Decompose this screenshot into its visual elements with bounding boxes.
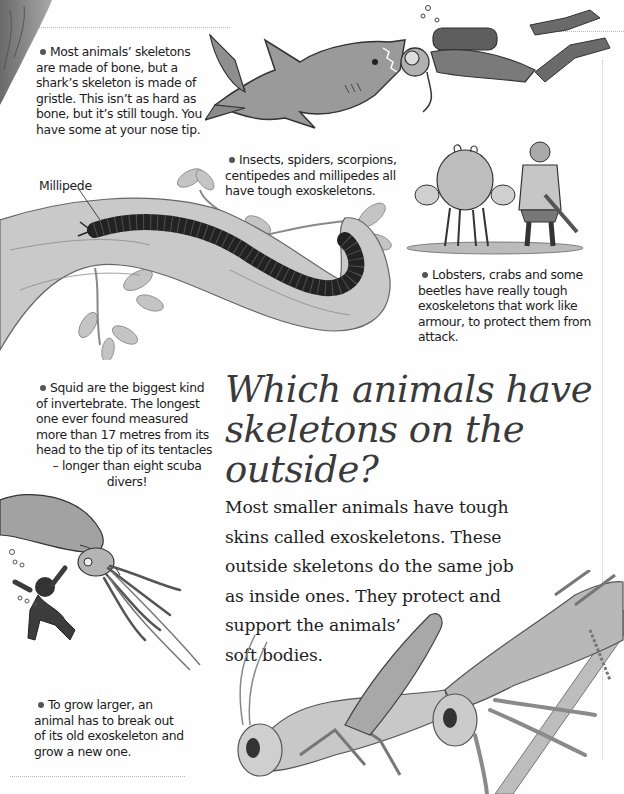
- fact-line: bone, but it’s still tough. You: [36, 106, 226, 122]
- millipede-branch-illustration: [0, 160, 400, 360]
- fact-line: armour, to protect them from: [418, 314, 608, 330]
- fact-line: attack.: [418, 329, 608, 345]
- bottom-frame-rule: [10, 776, 185, 777]
- heading-line: outside?: [225, 450, 615, 490]
- fact-line: one ever found measured: [36, 411, 218, 427]
- fact-line: Lobsters, crabs and some: [432, 267, 583, 282]
- body-line: skins called exoskeletons. These: [225, 523, 605, 553]
- fact-line: more than 17 metres from its: [36, 427, 218, 443]
- fact-shark-skeleton: Most animals’ skeletons are made of bone…: [36, 44, 226, 138]
- fact-line: of its old exoskeleton and: [34, 728, 209, 744]
- page-heading: Which animals have skeletons on the outs…: [225, 370, 615, 490]
- heading-line: Which animals have: [225, 370, 615, 410]
- fact-line: shark’s skeleton is made of: [36, 75, 226, 91]
- heading-line: skeletons on the: [225, 410, 615, 450]
- fact-line: are made of bone, but a: [36, 60, 226, 76]
- fact-line: animal has to break out: [34, 713, 209, 729]
- fact-line: grow a new one.: [34, 744, 209, 760]
- squid-diver-illustration: [0, 490, 215, 680]
- fact-line: beetles have really tough: [418, 283, 608, 299]
- top-frame-rule: [35, 27, 230, 28]
- grasshopper-moulting-illustration: [195, 570, 624, 794]
- body-line: Most smaller animals have tough: [225, 493, 605, 523]
- fact-giant-squid: Squid are the biggest kind of invertebra…: [36, 380, 218, 489]
- bullet-icon: [40, 385, 46, 391]
- bullet-icon: [40, 49, 46, 55]
- fact-line: Squid are the biggest kind: [50, 380, 204, 395]
- bullet-icon: [38, 702, 44, 708]
- fact-line: – longer than eight scuba: [36, 458, 218, 474]
- fact-growing-new-exoskeleton: To grow larger, an animal has to break o…: [34, 697, 209, 759]
- fact-line: have some at your nose tip.: [36, 122, 226, 138]
- fact-line: head to the tip of its tentacles: [36, 442, 218, 458]
- fact-line: To grow larger, an: [48, 697, 153, 712]
- fact-line: gristle. This isn’t as hard as: [36, 91, 226, 107]
- fact-line: exoskeletons that work like: [418, 298, 608, 314]
- fact-line: Most animals’ skeletons: [50, 44, 190, 59]
- shark-diver-illustration: [205, 0, 615, 135]
- bullet-icon: [422, 272, 428, 278]
- fact-line: of invertebrate. The longest: [36, 396, 218, 412]
- fact-lobsters-crabs-armour: Lobsters, crabs and some beetles have re…: [418, 267, 608, 345]
- crab-knight-illustration: [405, 140, 585, 255]
- fact-line: divers!: [36, 474, 218, 490]
